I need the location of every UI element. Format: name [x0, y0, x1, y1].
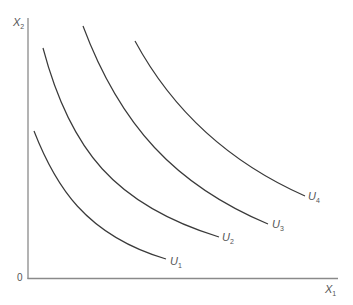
- curve-u1: [34, 131, 166, 259]
- curve-label-u2: U2: [222, 231, 234, 245]
- origin-label: 0: [17, 272, 23, 283]
- curve-label-u3: U3: [272, 218, 284, 232]
- curve-label-u4: U4: [308, 190, 320, 204]
- curve-label-u1: U1: [170, 255, 182, 269]
- curve-u2: [43, 48, 219, 237]
- x-axis-label: X1: [324, 283, 336, 297]
- curve-u3: [83, 26, 268, 224]
- curve-u4: [135, 41, 305, 196]
- indifference-curve-diagram: X2 X1 0 U1 U2 U3 U4: [0, 0, 353, 305]
- y-axis-label: X2: [12, 16, 24, 30]
